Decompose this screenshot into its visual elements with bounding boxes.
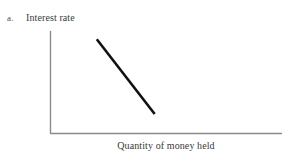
money-demand-figure: a. Interest rate Quantity of money held xyxy=(0,0,282,158)
x-axis-title: Quantity of money held xyxy=(50,140,282,152)
money-demand-curve xyxy=(97,39,155,114)
plot-area xyxy=(0,0,282,158)
